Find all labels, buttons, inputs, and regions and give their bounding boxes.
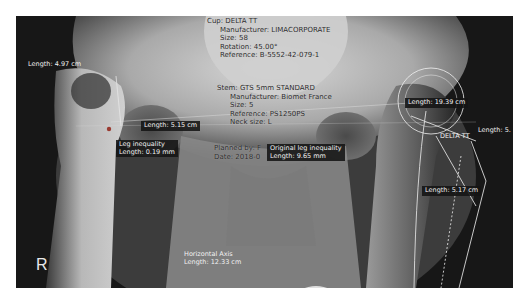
stem-neck-size: Neck size: L — [217, 118, 332, 127]
measurement-right-length-517[interactable]: Length: 5.17 cm — [422, 186, 481, 196]
cup-manufacturer: Manufacturer: LIMACORPORATE — [207, 26, 331, 35]
planned-by: Planned by: F — [214, 144, 261, 153]
measurement-right-length-19[interactable]: Length: 19.39 cm — [405, 98, 468, 108]
measurement-leg-inequality[interactable]: Leg inequality Length: 0.19 mm — [116, 140, 178, 157]
side-marker-right: R — [36, 256, 48, 274]
cup-size: Size: 58 — [207, 34, 331, 43]
plan-info-block: Planned by: F Date: 2018-0 — [214, 144, 261, 161]
measurement-original-leg-inequality[interactable]: Original leg inequality Length: 9.65 mm — [267, 144, 345, 161]
stem-size: Size: 5 — [217, 101, 332, 110]
cup-reference: Reference: B-5552-42-079-1 — [207, 51, 331, 60]
measurement-mid-length[interactable]: Length: 5.15 cm — [141, 121, 200, 131]
stem-title: Stem: GTS 5mm STANDARD — [217, 84, 332, 93]
stem-manufacturer: Manufacturer: Biomet France — [217, 93, 332, 102]
measurement-left-length[interactable]: Length: 4.97 cm — [25, 60, 84, 70]
measurement-horizontal-axis[interactable]: Horizontal Axis Length: 12.33 cm — [181, 250, 244, 267]
implant-template-label[interactable]: DELTA TT — [437, 132, 473, 142]
measurement-right-length-5[interactable]: Length: 5. — [475, 126, 513, 136]
plan-date: Date: 2018-0 — [214, 153, 261, 162]
stem-info-block: Stem: GTS 5mm STANDARD Manufacturer: Bio… — [217, 84, 332, 127]
xray-viewer[interactable]: Cup: DELTA TT Manufacturer: LIMACORPORAT… — [16, 16, 513, 288]
cup-info-block: Cup: DELTA TT Manufacturer: LIMACORPORAT… — [207, 17, 331, 60]
cup-title: Cup: DELTA TT — [207, 17, 331, 26]
